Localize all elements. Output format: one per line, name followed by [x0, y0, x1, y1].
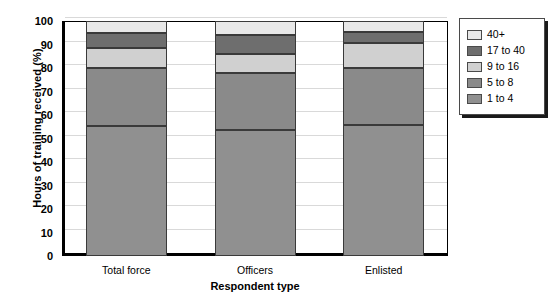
- legend-label: 17 to 40: [487, 45, 525, 56]
- legend-item[interactable]: 9 to 16: [467, 59, 538, 74]
- legend-swatch-icon: [467, 94, 482, 104]
- bar-segment[interactable]: [215, 130, 296, 256]
- bar-group: [86, 21, 167, 256]
- x-tick-label: Total force: [102, 264, 150, 276]
- chart-legend: 40+17 to 409 to 165 to 81 to 4: [459, 18, 545, 115]
- bar-stack: [86, 21, 167, 256]
- legend-item[interactable]: 1 to 4: [467, 91, 538, 106]
- bar-segment[interactable]: [215, 54, 296, 73]
- legend-item[interactable]: 40+: [467, 27, 538, 42]
- legend-item[interactable]: 5 to 8: [467, 75, 538, 90]
- bar-segment[interactable]: [86, 48, 167, 69]
- bar-segment[interactable]: [343, 68, 424, 126]
- y-tick-label: 0: [47, 251, 53, 262]
- bars-layer: [62, 21, 448, 256]
- bar-group: [343, 21, 424, 256]
- legend-label: 9 to 16: [487, 61, 519, 72]
- bar-segment[interactable]: [343, 125, 424, 256]
- legend-label: 5 to 8: [487, 77, 513, 88]
- x-tick-label: Officers: [237, 264, 273, 276]
- legend-item[interactable]: 17 to 40: [467, 43, 538, 58]
- bar-segment[interactable]: [86, 126, 167, 256]
- bar-stack: [343, 21, 424, 256]
- y-axis-tick-labels: 0102030405060708090100: [0, 0, 62, 296]
- x-tick-label: Enlisted: [365, 264, 402, 276]
- stacked-bar-chart: Hours of training received (%) 010203040…: [0, 0, 554, 296]
- y-tick-label: 80: [41, 63, 53, 74]
- y-tick-label: 70: [41, 86, 53, 97]
- gridline: [65, 17, 447, 18]
- y-tick-label: 90: [41, 39, 53, 50]
- y-tick-label: 100: [35, 16, 53, 27]
- legend-swatch-icon: [467, 46, 482, 56]
- bar-segment[interactable]: [215, 21, 296, 35]
- bar-segment[interactable]: [86, 33, 167, 47]
- legend-label: 1 to 4: [487, 93, 513, 104]
- y-tick-label: 20: [41, 204, 53, 215]
- y-tick-label: 30: [41, 180, 53, 191]
- bar-segment[interactable]: [215, 35, 296, 54]
- legend-label: 40+: [487, 29, 505, 40]
- bar-segment[interactable]: [343, 43, 424, 67]
- bar-segment[interactable]: [86, 21, 167, 33]
- y-tick-label: 60: [41, 110, 53, 121]
- y-tick-label: 40: [41, 157, 53, 168]
- bar-segment[interactable]: [86, 68, 167, 126]
- y-tick-label: 50: [41, 133, 53, 144]
- bar-stack: [215, 21, 296, 256]
- bar-segment[interactable]: [343, 32, 424, 43]
- legend-swatch-icon: [467, 30, 482, 40]
- legend-swatch-icon: [467, 62, 482, 72]
- bar-segment[interactable]: [215, 73, 296, 130]
- bar-segment[interactable]: [343, 21, 424, 32]
- legend-swatch-icon: [467, 78, 482, 88]
- y-tick-label: 10: [41, 227, 53, 238]
- bar-group: [215, 21, 296, 256]
- x-axis-title: Respondent type: [62, 280, 448, 292]
